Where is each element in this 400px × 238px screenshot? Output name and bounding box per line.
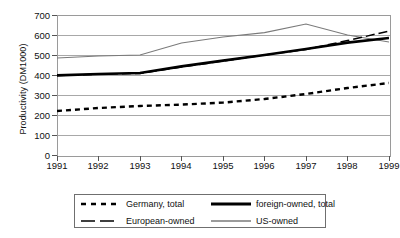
y-tick-label-700: 700 [16,10,50,21]
series-line-european-owned [57,31,389,75]
y-tick-label-100: 100 [16,130,50,141]
x-tick-label-1992: 1992 [78,160,118,171]
dashed-swatch-icon [79,216,121,226]
legend-label: foreign-owned, total [256,199,335,209]
legend-label: European-owned [126,216,195,226]
x-tick-label-1991: 1991 [37,160,77,171]
legend-item-foreign-owned-total[interactable]: foreign-owned, total [209,199,331,209]
x-tick-label-1995: 1995 [203,160,243,171]
series-line-germany-total [57,83,389,111]
chart-legend: Germany, total foreign-owned, total Euro… [74,194,326,228]
x-tick-label-1997: 1997 [286,160,326,171]
y-tick-label-500: 500 [16,50,50,61]
series-line-foreign-owned-total [57,38,389,75]
x-tick-label-1996: 1996 [244,160,284,171]
y-tick-label-600: 600 [16,30,50,41]
x-tick-label-1998: 1998 [327,160,367,171]
x-tick-label-1999: 1999 [369,160,400,171]
thin-solid-swatch-icon [209,216,251,226]
y-tick-label-200: 200 [16,110,50,121]
chart-figure: Productivity (DM1000) 700 600 500 400 30… [0,0,400,238]
legend-label: Germany, total [126,199,184,209]
dotted-swatch-icon [79,199,121,209]
thick-solid-swatch-icon [209,199,251,209]
y-tick-label-400: 400 [16,70,50,81]
legend-item-germany-total[interactable]: Germany, total [79,199,209,209]
legend-item-european-owned[interactable]: European-owned [79,216,209,226]
series-line-us-owned [57,24,389,58]
x-tick-label-1994: 1994 [161,160,201,171]
legend-item-us-owned[interactable]: US-owned [209,216,331,226]
data-series-layer [57,15,389,155]
legend-label: US-owned [256,216,298,226]
y-tick-label-300: 300 [16,90,50,101]
x-tick-label-1993: 1993 [120,160,160,171]
